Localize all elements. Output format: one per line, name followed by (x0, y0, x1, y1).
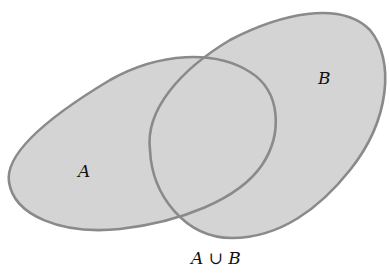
caption-set-a: A (191, 248, 203, 268)
caption-set-b: B (228, 248, 241, 268)
set-a-label: A (78, 163, 90, 180)
union-fill (9, 13, 386, 238)
venn-diagram (0, 0, 390, 274)
union-operator: ∪ (209, 248, 223, 268)
set-b-label: B (318, 70, 331, 87)
union-caption: A ∪ B (191, 250, 241, 267)
